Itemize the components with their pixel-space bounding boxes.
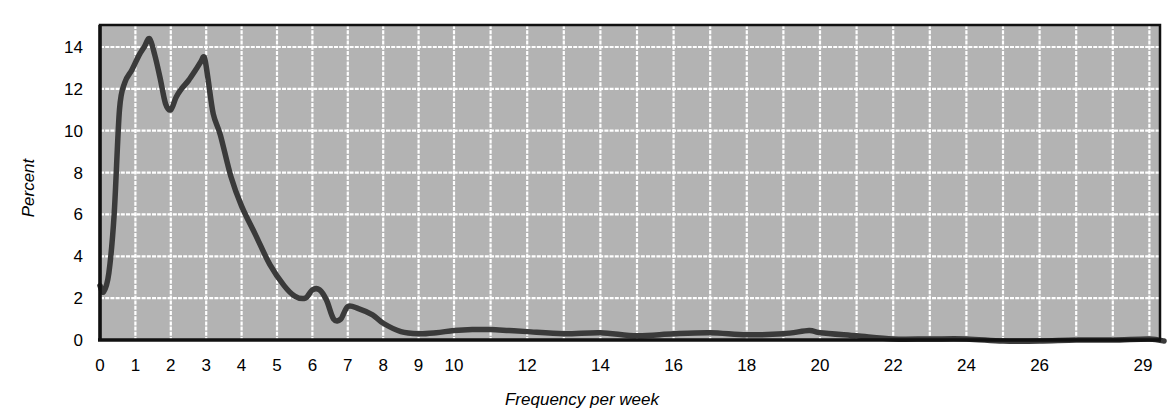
y-tick-label: 0 <box>74 331 83 350</box>
x-tick-label: 2 <box>166 356 175 375</box>
y-tick-label: 8 <box>74 164 83 183</box>
y-axis-label: Percent <box>19 157 38 217</box>
x-tick-label: 5 <box>272 356 281 375</box>
x-tick-label: 16 <box>664 356 683 375</box>
x-axis-ticks: 012345678910121416182022242629 <box>95 356 1152 375</box>
y-tick-label: 12 <box>64 80 83 99</box>
x-tick-label: 0 <box>95 356 104 375</box>
x-tick-label: 1 <box>131 356 140 375</box>
y-tick-label: 4 <box>74 247 83 266</box>
x-tick-label: 20 <box>811 356 830 375</box>
y-tick-label: 6 <box>74 205 83 224</box>
x-tick-label: 26 <box>1030 356 1049 375</box>
x-tick-label: 6 <box>308 356 317 375</box>
x-tick-label: 3 <box>201 356 210 375</box>
line-chart: 02468101214 0123456789101214161820222426… <box>0 0 1172 416</box>
x-tick-label: 29 <box>1134 356 1153 375</box>
y-tick-label: 2 <box>74 289 83 308</box>
x-tick-label: 4 <box>237 356 246 375</box>
plot-background <box>100 25 1160 340</box>
x-tick-label: 7 <box>343 356 352 375</box>
y-tick-label: 10 <box>64 122 83 141</box>
x-tick-label: 10 <box>445 356 464 375</box>
x-tick-label: 12 <box>518 356 537 375</box>
x-axis-label: Frequency per week <box>505 390 661 409</box>
y-tick-label: 14 <box>64 38 83 57</box>
x-tick-label: 22 <box>884 356 903 375</box>
plot-area <box>100 25 1160 340</box>
x-tick-label: 14 <box>591 356 610 375</box>
x-tick-label: 24 <box>957 356 976 375</box>
y-axis-ticks: 02468101214 <box>64 38 83 350</box>
x-tick-label: 9 <box>414 356 423 375</box>
x-tick-label: 18 <box>737 356 756 375</box>
x-tick-label: 8 <box>378 356 387 375</box>
